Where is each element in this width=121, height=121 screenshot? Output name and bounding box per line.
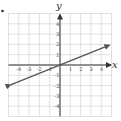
svg-text:2: 2: [79, 66, 82, 72]
svg-text:-4: -4: [16, 66, 21, 72]
svg-text:3: 3: [90, 66, 93, 72]
svg-text:4: 4: [100, 66, 103, 72]
coordinate-plane: -4-3-2-112344321-1-2-3-4 x y: [0, 0, 121, 121]
svg-text:-1: -1: [55, 72, 60, 78]
svg-text:-4: -4: [55, 103, 60, 109]
y-axis-label: y: [55, 0, 62, 11]
svg-text:-3: -3: [27, 66, 32, 72]
svg-text:4: 4: [56, 21, 59, 27]
svg-text:-2: -2: [55, 83, 60, 89]
svg-text:1: 1: [69, 66, 72, 72]
svg-text:1: 1: [56, 52, 59, 58]
svg-text:2: 2: [56, 41, 59, 47]
x-axis-label: x: [112, 59, 118, 70]
bullet-marker: [1, 10, 4, 13]
svg-text:-2: -2: [37, 66, 42, 72]
svg-text:-3: -3: [55, 93, 60, 99]
svg-text:3: 3: [56, 31, 59, 37]
